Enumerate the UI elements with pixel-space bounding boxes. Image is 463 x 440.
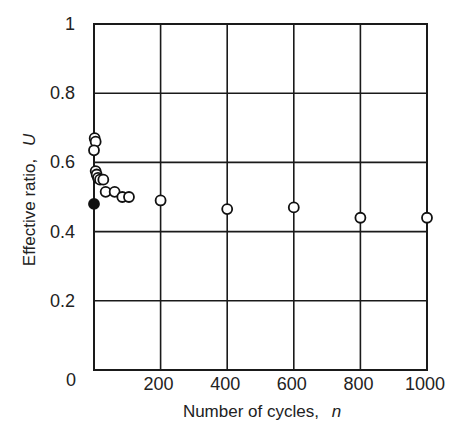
x-tick-label: 400: [210, 374, 240, 394]
x-axis-variable: n: [332, 402, 341, 421]
y-tick-label: 1: [65, 14, 75, 34]
open-data-point: [98, 175, 108, 185]
data-points: [89, 133, 432, 223]
open-data-point: [422, 213, 432, 223]
x-tick-label: 600: [277, 374, 307, 394]
x-tick-label: 200: [144, 374, 174, 394]
filled-data-point: [89, 199, 99, 209]
y-axis-ticks: 00.20.40.60.81: [50, 14, 76, 390]
x-tick-label: 1000: [405, 374, 445, 394]
plot-frame: [94, 24, 427, 370]
y-axis-variable: U: [20, 133, 39, 146]
y-tick-label: 0.6: [50, 152, 75, 172]
open-data-point: [222, 204, 232, 214]
y-tick-label: 0.8: [50, 83, 75, 103]
open-data-point: [289, 202, 299, 212]
open-data-point: [156, 195, 166, 205]
y-tick-label: 0: [66, 370, 76, 390]
y-axis-label: Effective ratio,: [20, 159, 39, 266]
y-axis-title: Effective ratio, U: [20, 133, 39, 266]
grid-lines: [94, 24, 427, 370]
x-axis-label: Number of cycles,: [183, 402, 319, 421]
scatter-chart: 00.20.40.60.81 2004006008001000 Number o…: [0, 0, 463, 440]
y-tick-label: 0.4: [50, 222, 75, 242]
open-data-point: [89, 145, 99, 155]
x-tick-label: 800: [343, 374, 373, 394]
y-tick-label: 0.2: [50, 291, 75, 311]
open-data-point: [124, 192, 134, 202]
open-data-point: [355, 213, 365, 223]
x-axis-title: Number of cycles, n: [183, 402, 341, 421]
x-axis-ticks: 2004006008001000: [144, 374, 445, 394]
